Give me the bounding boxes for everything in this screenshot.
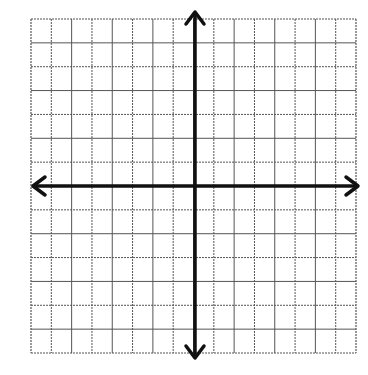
axes bbox=[33, 12, 358, 358]
coordinate-plane bbox=[0, 0, 368, 375]
